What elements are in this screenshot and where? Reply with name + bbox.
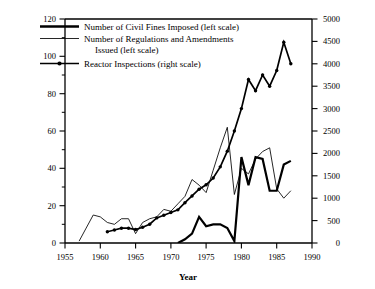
y-right-tick-label: 2000 <box>323 148 340 158</box>
legend-marker-dot-icon <box>57 61 61 65</box>
chart-container: 0 20 40 60 80 100 120 0 500 1000 <box>0 0 375 289</box>
data-point-marker <box>204 183 207 186</box>
y-right-tick-label: 3000 <box>323 104 340 114</box>
series-markers-reactor-inspections <box>106 41 293 234</box>
data-point-marker <box>261 73 264 76</box>
data-series-group <box>79 41 292 243</box>
legend-label-civil-fines: Number of Civil Fines Imposed (left scal… <box>84 22 239 32</box>
legend-label-regulations-line2: Issued (left scale) <box>95 45 158 55</box>
y-right-tick-label: 1500 <box>323 171 340 181</box>
data-point-marker <box>275 69 278 72</box>
y-axis-right-ticks: 0 500 1000 1500 2000 2500 3000 3500 4000… <box>312 14 340 248</box>
y-right-tick-label: 500 <box>327 216 340 226</box>
x-tick-label: 1985 <box>268 252 285 262</box>
y-right-tick-label: 1000 <box>323 193 340 203</box>
y-right-tick-label: 4500 <box>323 36 340 46</box>
y-right-tick-label: 3500 <box>323 81 340 91</box>
data-point-marker <box>183 201 186 204</box>
y-right-tick-label: 0 <box>336 238 340 248</box>
y-right-tick-label: 4000 <box>323 59 340 69</box>
x-tick-label: 1970 <box>162 252 179 262</box>
data-point-marker <box>268 85 271 88</box>
x-tick-label: 1990 <box>304 252 321 262</box>
y-right-tick-label: 2500 <box>323 126 340 136</box>
data-point-marker <box>127 227 130 230</box>
x-tick-label: 1960 <box>92 252 109 262</box>
x-axis-title: Year <box>179 272 197 282</box>
x-tick-label: 1975 <box>198 252 215 262</box>
series-line-regulations <box>79 127 291 241</box>
data-point-marker <box>155 216 158 219</box>
y-left-tick-label: 40 <box>48 163 57 173</box>
data-point-marker <box>141 226 144 229</box>
data-point-marker <box>169 211 172 214</box>
data-point-marker <box>226 149 229 152</box>
data-point-marker <box>219 165 222 168</box>
y-left-tick-label: 60 <box>48 126 57 136</box>
legend-label-regulations: Number of Regulations and Amendments <box>84 34 234 44</box>
data-point-marker <box>254 89 257 92</box>
data-point-marker <box>212 176 215 179</box>
y-left-tick-label: 0 <box>52 238 56 248</box>
data-point-marker <box>113 228 116 231</box>
y-axis-left-ticks: 0 20 40 60 80 100 120 <box>43 14 65 248</box>
data-point-marker <box>282 41 285 44</box>
x-tick-label: 1955 <box>57 252 74 262</box>
x-tick-label: 1980 <box>233 252 250 262</box>
x-tick-label: 1965 <box>127 252 144 262</box>
y-left-tick-label: 100 <box>43 51 56 61</box>
chart-svg: 0 20 40 60 80 100 120 0 500 1000 <box>0 0 375 289</box>
data-point-marker <box>120 227 123 230</box>
data-point-marker <box>197 188 200 191</box>
data-point-marker <box>106 230 109 233</box>
data-point-marker <box>162 214 165 217</box>
data-point-marker <box>240 107 243 110</box>
chart-legend: Number of Civil Fines Imposed (left scal… <box>40 22 239 69</box>
x-axis-ticks: 1955 1960 1965 1970 1975 1980 1985 1990 <box>57 243 321 262</box>
series-line-reactor-inspections <box>107 42 290 232</box>
data-point-marker <box>289 62 292 65</box>
y-right-tick-label: 5000 <box>323 14 340 24</box>
data-point-marker <box>134 228 137 231</box>
y-left-tick-label: 120 <box>43 14 56 24</box>
data-point-marker <box>148 222 151 225</box>
data-point-marker <box>176 208 179 211</box>
data-point-marker <box>233 129 236 132</box>
legend-label-reactor-inspections: Reactor Inspections (right scale) <box>84 59 201 69</box>
data-point-marker <box>247 78 250 81</box>
y-left-tick-label: 80 <box>48 89 57 99</box>
y-left-tick-label: 20 <box>48 201 57 211</box>
data-point-marker <box>190 194 193 197</box>
